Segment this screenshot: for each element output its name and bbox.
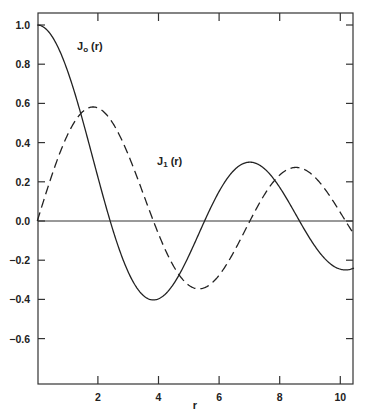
y-axis: 1.00.80.60.40.20.0−0.2−0.4−0.6 bbox=[9, 19, 353, 345]
x-axis-label: r bbox=[193, 399, 198, 411]
y-tick-label: 1.0 bbox=[15, 19, 30, 31]
x-tick-label: 10 bbox=[334, 391, 346, 403]
y-tick-label: 0.8 bbox=[15, 58, 30, 70]
j1-curve bbox=[37, 107, 354, 289]
y-tick-label: 0.6 bbox=[15, 97, 30, 109]
chart-canvas: 1.00.80.60.40.20.0−0.2−0.4−0.6 246810 Jo… bbox=[0, 0, 365, 411]
y-tick-label: 0.0 bbox=[15, 215, 30, 227]
y-tick-label: 0.2 bbox=[15, 176, 30, 188]
y-tick-label: −0.2 bbox=[9, 254, 30, 266]
j1-label: J1 (r) bbox=[157, 155, 183, 169]
y-tick-label: 0.4 bbox=[15, 137, 30, 149]
j0-label: Jo (r) bbox=[77, 40, 103, 54]
y-tick-label: −0.6 bbox=[9, 333, 30, 345]
x-tick-label: 2 bbox=[95, 391, 101, 403]
plot-frame bbox=[38, 13, 353, 384]
x-tick-label: 8 bbox=[277, 391, 283, 403]
x-tick-label: 4 bbox=[156, 391, 162, 403]
x-tick-label: 6 bbox=[216, 391, 222, 403]
plot-border bbox=[38, 13, 353, 384]
x-axis: 246810 bbox=[95, 13, 346, 403]
series-labels: Jo (r)J1 (r) bbox=[77, 40, 183, 169]
series-group bbox=[37, 25, 354, 300]
j0-curve bbox=[37, 25, 354, 300]
y-tick-label: −0.4 bbox=[9, 293, 30, 305]
bessel-chart: 1.00.80.60.40.20.0−0.2−0.4−0.6 246810 Jo… bbox=[0, 0, 365, 411]
